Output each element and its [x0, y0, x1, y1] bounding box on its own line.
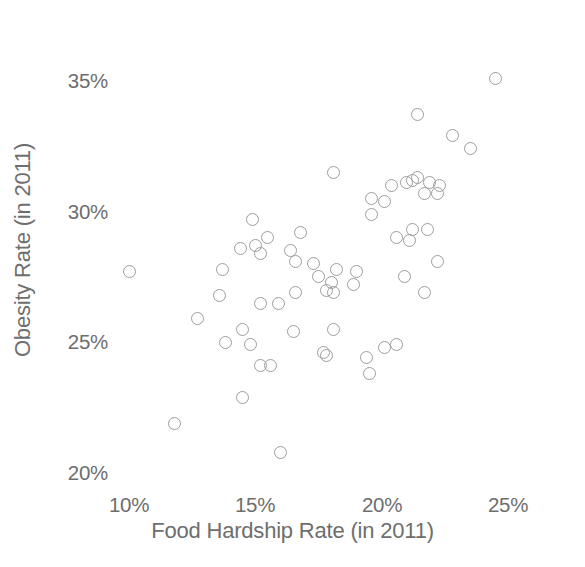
data-point [261, 231, 274, 244]
data-point [378, 195, 391, 208]
data-point [236, 323, 249, 336]
data-point [320, 349, 333, 362]
data-point [294, 226, 307, 239]
data-point [219, 336, 232, 349]
y-axis-title-container: Obesity Rate (in 2011) [0, 0, 46, 500]
x-axis-title: Food Hardship Rate (in 2011) [0, 518, 585, 544]
data-point [363, 367, 376, 380]
data-point [431, 255, 444, 268]
data-point [418, 187, 431, 200]
data-point [287, 325, 300, 338]
data-point [289, 255, 302, 268]
data-point [244, 338, 257, 351]
data-point [254, 297, 267, 310]
data-point [385, 179, 398, 192]
data-point [320, 284, 333, 297]
data-point [274, 446, 287, 459]
data-point [272, 297, 285, 310]
data-point [289, 286, 302, 299]
data-point [216, 263, 229, 276]
plot-area: 35% 30% 25% 20% 10% 15% 20% 25% [0, 0, 585, 567]
data-point [378, 341, 391, 354]
data-point [360, 351, 373, 364]
data-point [390, 338, 403, 351]
data-point [213, 289, 226, 302]
data-points-layer [0, 0, 585, 567]
data-point [390, 231, 403, 244]
data-point [421, 223, 434, 236]
data-point [123, 265, 136, 278]
data-point [464, 142, 477, 155]
data-point [254, 247, 267, 260]
data-point [411, 108, 424, 121]
data-point [246, 213, 259, 226]
data-point [191, 312, 204, 325]
data-point [264, 359, 277, 372]
data-point [347, 278, 360, 291]
data-point [400, 176, 413, 189]
data-point [350, 265, 363, 278]
data-point [365, 192, 378, 205]
data-point [236, 391, 249, 404]
scatter-plot-figure: 35% 30% 25% 20% 10% 15% 20% 25% Food Har… [0, 0, 585, 567]
data-point [446, 129, 459, 142]
data-point [365, 208, 378, 221]
data-point [307, 257, 320, 270]
data-point [398, 270, 411, 283]
data-point [403, 234, 416, 247]
y-axis-title: Obesity Rate (in 2011) [10, 143, 36, 357]
data-point [433, 179, 446, 192]
data-point [312, 270, 325, 283]
data-point [489, 72, 502, 85]
data-point [168, 417, 181, 430]
data-point [327, 323, 340, 336]
data-point [330, 263, 343, 276]
data-point [418, 286, 431, 299]
data-point [234, 242, 247, 255]
data-point [327, 166, 340, 179]
